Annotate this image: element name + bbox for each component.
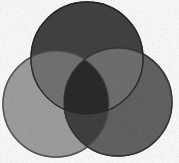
venn-svg: [0, 0, 179, 163]
venn-diagram: Three-circle Venn diagram Three overlapp…: [0, 0, 179, 163]
grain-texture: [0, 0, 179, 163]
